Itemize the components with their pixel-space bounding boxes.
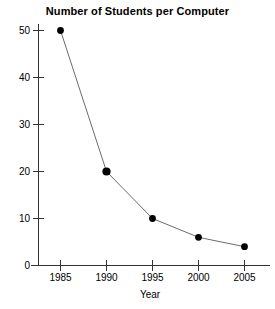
data-point-1990	[102, 167, 110, 175]
x-tick-label-1995: 1995	[132, 273, 174, 283]
chart-figure: Number of Students per Computer 0102	[0, 0, 275, 309]
data-point-2000	[195, 234, 202, 241]
y-tick-label-20: 20	[4, 167, 30, 177]
y-tick-label-40: 40	[4, 73, 30, 83]
series-line-students-per-computer	[61, 31, 245, 247]
y-tick-label-50: 50	[4, 26, 30, 36]
data-point-1985	[57, 27, 64, 34]
series-markers	[57, 27, 248, 250]
plot-area	[0, 0, 275, 309]
y-tick-label-30: 30	[4, 120, 30, 130]
x-axis-title: Year	[38, 289, 262, 300]
x-tick-label-2005: 2005	[224, 273, 266, 283]
data-point-2005	[241, 243, 248, 250]
y-tick-label-0: 0	[4, 261, 30, 271]
x-tick-label-2000: 2000	[178, 273, 220, 283]
data-point-1995	[149, 215, 156, 222]
x-tick-label-1990: 1990	[86, 273, 128, 283]
x-tick-label-1985: 1985	[40, 273, 82, 283]
y-tick-label-10: 10	[4, 214, 30, 224]
